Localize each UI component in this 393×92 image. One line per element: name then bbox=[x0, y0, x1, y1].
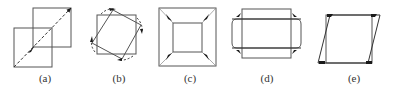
arrowhead-icon bbox=[236, 13, 241, 17]
tall-rectangle bbox=[242, 9, 291, 58]
arrowhead-icon bbox=[203, 14, 209, 21]
rotated-square bbox=[92, 10, 141, 59]
arrowhead-icon bbox=[117, 58, 122, 61]
arrowhead-icon bbox=[236, 50, 241, 54]
sheared-parallelogram bbox=[318, 15, 380, 63]
panel-c-scaling-diagram bbox=[159, 8, 216, 66]
arrowhead-icon bbox=[140, 29, 143, 34]
arrowhead-icon bbox=[292, 50, 297, 54]
panel-b-rotation-diagram bbox=[90, 8, 143, 61]
panel-d-label: (d) bbox=[261, 72, 274, 84]
transformation-figure bbox=[0, 0, 393, 92]
translation-arrow-icon bbox=[14, 8, 71, 67]
panel-d-aspect-diagram bbox=[232, 9, 301, 58]
panel-e-shear-diagram bbox=[318, 14, 380, 64]
corner-marker-icon bbox=[319, 61, 325, 64]
original-square bbox=[97, 15, 136, 54]
panel-b-label: (b) bbox=[113, 72, 126, 84]
corner-marker-icon bbox=[366, 61, 372, 64]
panel-a-label: (a) bbox=[39, 72, 51, 84]
arrowhead-icon bbox=[292, 13, 297, 17]
arrowhead-icon bbox=[166, 14, 172, 21]
panel-c-label: (c) bbox=[184, 72, 196, 84]
original-rectangle bbox=[326, 15, 372, 63]
inner-square bbox=[173, 23, 202, 52]
arrowhead-icon bbox=[90, 36, 93, 42]
panel-e-label: (e) bbox=[348, 72, 360, 84]
panel-a-translation-diagram bbox=[14, 8, 71, 67]
